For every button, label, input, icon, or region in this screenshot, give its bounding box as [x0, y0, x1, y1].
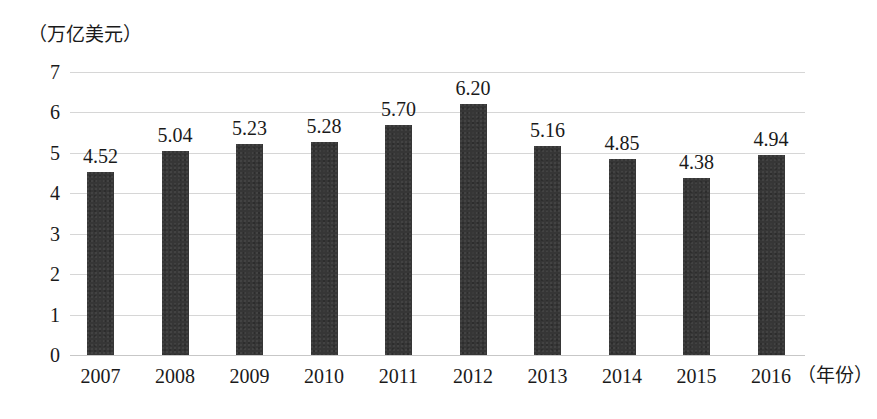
bar-value-label: 5.16 [511, 119, 585, 141]
gridline [70, 355, 805, 356]
bar-value-label: 6.20 [436, 77, 510, 99]
y-axis-tick-label: 0 [26, 345, 60, 365]
bar-value-label: 5.04 [138, 124, 212, 146]
bar [162, 151, 189, 355]
y-axis-tick-label: 2 [26, 264, 60, 284]
x-axis-tick-label: 2014 [585, 364, 659, 388]
bar-value-label: 5.28 [287, 115, 361, 137]
x-axis-tick-label: 2008 [138, 364, 212, 388]
bar [87, 172, 114, 355]
x-axis-tick-label: 2011 [362, 364, 436, 388]
gridline [70, 113, 805, 114]
bar-value-label: 4.52 [64, 145, 138, 167]
bar-value-label: 4.85 [585, 132, 659, 154]
bar [311, 142, 338, 355]
x-axis-tick-label: 2013 [511, 364, 585, 388]
gridline [70, 72, 805, 73]
bar-chart-screenshot: （万亿美元） 01234567 4.525.045.235.285.706.20… [0, 0, 877, 419]
bar [609, 159, 636, 355]
bar [236, 144, 263, 355]
bar [683, 178, 710, 355]
y-axis-tick-label: 5 [26, 143, 60, 163]
x-axis-tick-label: 2015 [660, 364, 734, 388]
y-axis-tick-label: 7 [26, 62, 60, 82]
bar [385, 125, 412, 355]
plot-area: 01234567 [70, 72, 805, 355]
x-axis-tick-label: 2012 [436, 364, 510, 388]
y-axis-tick-label: 3 [26, 224, 60, 244]
bar [460, 104, 487, 355]
y-axis-tick-label: 1 [26, 305, 60, 325]
bar-value-label: 5.70 [362, 98, 436, 120]
x-axis-tick-label: 2010 [287, 364, 361, 388]
x-axis-tick-label: 2009 [213, 364, 287, 388]
y-axis-tick-label: 4 [26, 183, 60, 203]
bar [758, 155, 785, 355]
bar-value-label: 4.38 [660, 151, 734, 173]
bar [534, 146, 561, 355]
y-axis-unit-caption: （万亿美元） [28, 22, 142, 48]
bar-value-label: 5.23 [213, 117, 287, 139]
bar-value-label: 4.94 [734, 128, 808, 150]
y-axis-tick-label: 6 [26, 102, 60, 122]
x-axis-tick-label: 2007 [64, 364, 138, 388]
x-axis-unit-caption: （年份） [797, 364, 873, 388]
